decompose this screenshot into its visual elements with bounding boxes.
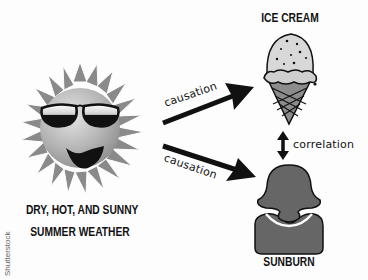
sunburn-label: SUNBURN	[260, 255, 317, 269]
correlation-label: correlation	[293, 138, 354, 151]
ice-cream-label: ICE CREAM	[259, 11, 321, 25]
ice-cream-cone-icon	[264, 34, 317, 124]
person-silhouette-icon	[255, 165, 323, 254]
watermark: Shutterstock	[3, 232, 12, 276]
causation-correlation-diagram: DRY, HOT, AND SUNNY SUMMER WEATHER ICE C…	[0, 0, 368, 280]
sun-with-sunglasses-icon	[21, 62, 144, 194]
correlation-double-arrow	[277, 131, 289, 160]
weather-label-line1: DRY, HOT, AND SUNNY	[26, 203, 134, 217]
weather-label-line2: SUMMER WEATHER	[26, 225, 134, 239]
